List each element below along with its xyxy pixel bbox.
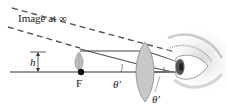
focal-point [78, 69, 84, 75]
eye-icon [164, 30, 226, 94]
angle-left-label: θ′ [113, 78, 121, 90]
magnifier-diagram: Image at ∞ h F θ′ θ′ [0, 0, 226, 110]
angle-arc-left [121, 64, 122, 72]
height-label: h [30, 56, 36, 68]
object-leaf-icon [75, 52, 83, 71]
image-at-infinity-label: Image at ∞ [18, 12, 67, 24]
focal-point-label: F [76, 77, 82, 89]
angle-right-label: θ′ [152, 93, 160, 105]
